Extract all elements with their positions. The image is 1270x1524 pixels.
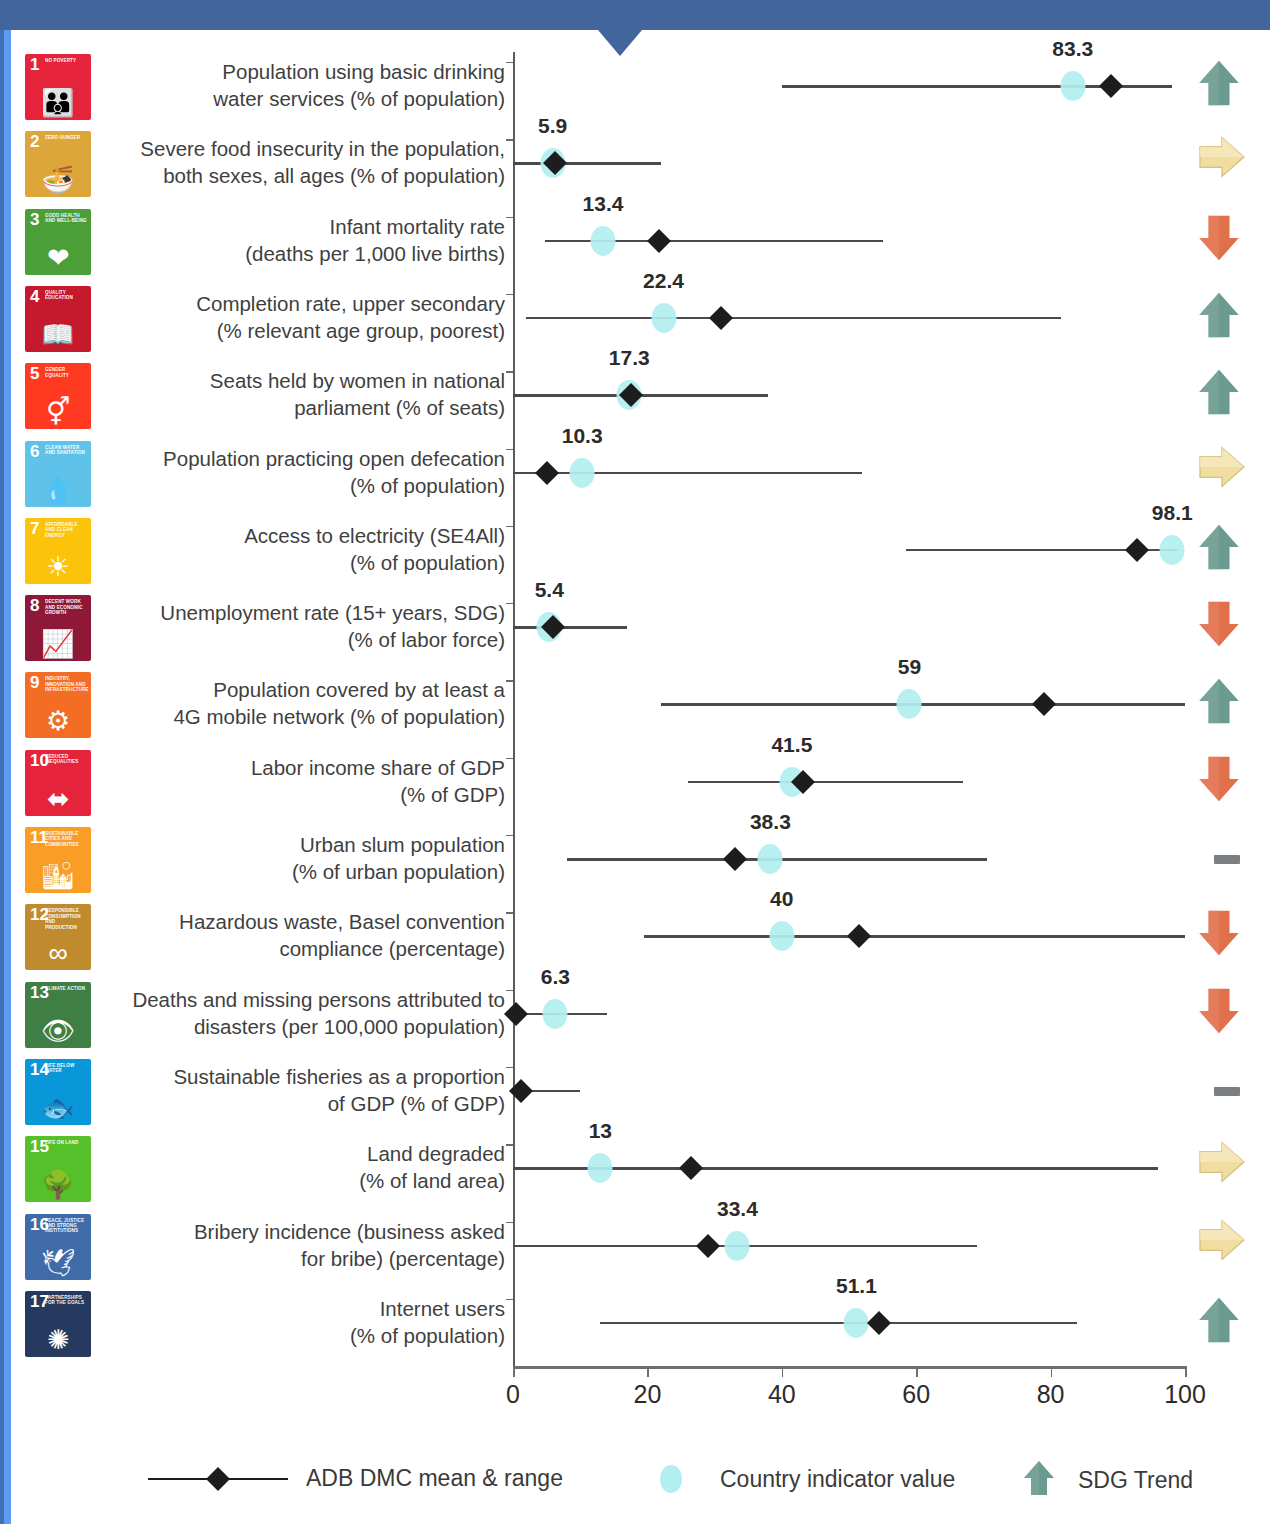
indicator-label-line: (deaths per 1,000 live births) xyxy=(95,240,505,267)
sdg-title: LIFE BELOW WATER xyxy=(45,1063,88,1074)
sdg-tile: 14LIFE BELOW WATER🐟 xyxy=(25,1059,91,1125)
trend-flat-icon xyxy=(1196,1140,1258,1196)
x-axis-tick xyxy=(647,1366,649,1377)
sdg-icon-2: 2ZERO HUNGER🍜 xyxy=(25,131,91,197)
axis-tick xyxy=(506,835,513,836)
indicator-label: Access to electricity (SE4All)(% of popu… xyxy=(95,522,505,576)
country-dot-icon xyxy=(660,1465,682,1493)
sdg-title: RESPONSIBLE CONSUMPTION AND PRODUCTION xyxy=(45,908,88,930)
sdg-tile: 3GOOD HEALTH AND WELL-BEING❤ xyxy=(25,209,91,275)
indicator-label-line: (% of urban population) xyxy=(95,858,505,885)
mean-diamond-marker xyxy=(1032,692,1056,716)
sdg-glyph-icon: ⬌ xyxy=(25,784,91,814)
x-axis-tick-label: 80 xyxy=(1037,1380,1065,1409)
x-axis-tick xyxy=(1051,1366,1053,1377)
sdg-icon-8: 8DECENT WORK AND ECONOMIC GROWTH📈 xyxy=(25,595,91,661)
indicator-label-line: Completion rate, upper secondary xyxy=(95,290,505,317)
mean-diamond-marker xyxy=(723,847,747,871)
country-value-label: 13 xyxy=(589,1119,612,1143)
indicator-label-line: Population using basic drinking xyxy=(95,58,505,85)
axis-tick xyxy=(506,603,513,604)
sdg-title: NO POVERTY xyxy=(45,58,88,63)
indicator-label: Sustainable fisheries as a proportionof … xyxy=(95,1063,505,1117)
indicator-label-line: (% of land area) xyxy=(95,1167,505,1194)
sdg-tile: 13CLIMATE ACTION👁 xyxy=(25,982,91,1048)
axis-tick xyxy=(506,912,513,913)
sdg-tile: 7AFFORDABLE AND CLEAN ENERGY☀ xyxy=(25,518,91,584)
indicator-label-line: Hazardous waste, Basel convention xyxy=(95,908,505,935)
country-value-label: 33.4 xyxy=(717,1197,758,1221)
axis-tick xyxy=(506,1222,513,1223)
x-axis-tick-label: 40 xyxy=(768,1380,796,1409)
mean-diamond-marker xyxy=(867,1311,891,1335)
sdg-icon-9: 9INDUSTRY, INNOVATION AND INFRASTRUCTURE… xyxy=(25,672,91,738)
country-value-label: 51.1 xyxy=(836,1274,877,1298)
indicator-label: Internet users(% of population) xyxy=(95,1295,505,1349)
x-axis-tick xyxy=(513,1366,515,1377)
sdg-icon-1: 1NO POVERTY👪 xyxy=(25,54,91,120)
sdg-icon-6: 6CLEAN WATER AND SANITATION💧 xyxy=(25,441,91,507)
sdg-title: GOOD HEALTH AND WELL-BEING xyxy=(45,213,88,224)
sdg-icon-15: 15LIFE ON LAND🌳 xyxy=(25,1136,91,1202)
indicator-label: Bribery incidence (business askedfor bri… xyxy=(95,1218,505,1272)
indicator-label-line: Urban slum population xyxy=(95,831,505,858)
trend-down-icon xyxy=(1196,986,1258,1042)
sdg-title: REDUCED INEQUALITIES xyxy=(45,754,88,765)
country-value-label: 38.3 xyxy=(750,810,791,834)
legend-item-trend: SDG Trend xyxy=(1022,1459,1193,1501)
header-band xyxy=(0,0,1270,30)
indicator-label-line: parliament (% of seats) xyxy=(95,394,505,421)
range-line xyxy=(513,626,627,629)
country-value-dot xyxy=(591,226,616,256)
diamond-marker-icon xyxy=(206,1466,230,1490)
indicator-label-line: Internet users xyxy=(95,1295,505,1322)
sdg-tile: 4QUALITY EDUCATION📖 xyxy=(25,286,91,352)
country-value-label: 5.9 xyxy=(538,114,567,138)
sdg-icon-11: 11SUSTAINABLE CITIES AND COMMUNITIES🏙 xyxy=(25,827,91,893)
trend-down-icon xyxy=(1196,213,1258,269)
sdg-title: AFFORDABLE AND CLEAN ENERGY xyxy=(45,522,88,538)
indicator-label: Population using basic drinkingwater ser… xyxy=(95,58,505,112)
sdg-glyph-icon: 📈 xyxy=(25,629,91,659)
sdg-title: GENDER EQUALITY xyxy=(45,367,88,378)
mean-diamond-marker xyxy=(1125,538,1149,562)
indicator-label-line: Land degraded xyxy=(95,1140,505,1167)
sdg-glyph-icon: 👁 xyxy=(25,1016,91,1046)
trend-none-icon xyxy=(1196,1063,1258,1119)
sdg-tile: 12RESPONSIBLE CONSUMPTION AND PRODUCTION… xyxy=(25,904,91,970)
plot-area: 83.35.913.422.417.310.398.15.45941.538.3… xyxy=(513,30,1185,1366)
x-axis-tick-label: 60 xyxy=(902,1380,930,1409)
x-axis-tick-label: 20 xyxy=(633,1380,661,1409)
sdg-title: PARTNERSHIPS FOR THE GOALS xyxy=(45,1295,88,1306)
mean-diamond-marker xyxy=(535,460,559,484)
indicator-label-line: disasters (per 100,000 population) xyxy=(95,1013,505,1040)
sdg-title: QUALITY EDUCATION xyxy=(45,290,88,301)
trend-flat-icon xyxy=(1196,1218,1258,1274)
country-value-label: 41.5 xyxy=(771,733,812,757)
sdg-tile: 2ZERO HUNGER🍜 xyxy=(25,131,91,197)
legend-item-range: ADB DMC mean & range xyxy=(148,1465,563,1492)
indicator-label-line: Bribery incidence (business asked xyxy=(95,1218,505,1245)
indicator-label: Labor income share of GDP(% of GDP) xyxy=(95,754,505,808)
indicator-label: Land degraded(% of land area) xyxy=(95,1140,505,1194)
axis-tick xyxy=(506,1144,513,1145)
range-line xyxy=(661,703,1185,706)
country-value-label: 59 xyxy=(898,655,921,679)
sdg-glyph-icon: 🐟 xyxy=(25,1093,91,1123)
sdg-tile: 10REDUCED INEQUALITIES⬌ xyxy=(25,750,91,816)
country-value-label: 6.3 xyxy=(541,965,570,989)
sdg-title: SUSTAINABLE CITIES AND COMMUNITIES xyxy=(45,831,88,847)
sdg-number: 6 xyxy=(30,443,39,460)
range-line xyxy=(513,472,862,475)
axis-tick xyxy=(506,139,513,140)
indicator-label-line: for bribe) (percentage) xyxy=(95,1245,505,1272)
country-value-dot xyxy=(1160,535,1185,565)
indicator-label-line: water services (% of population) xyxy=(95,85,505,112)
range-line xyxy=(600,1322,1077,1325)
country-value-label: 83.3 xyxy=(1052,37,1093,61)
country-value-label: 10.3 xyxy=(562,424,603,448)
indicator-label-line: Deaths and missing persons attributed to xyxy=(95,986,505,1013)
sdg-title: PEACE, JUSTICE AND STRONG INSTITUTIONS xyxy=(45,1218,88,1234)
axis-tick xyxy=(506,1067,513,1068)
indicator-label: Deaths and missing persons attributed to… xyxy=(95,986,505,1040)
